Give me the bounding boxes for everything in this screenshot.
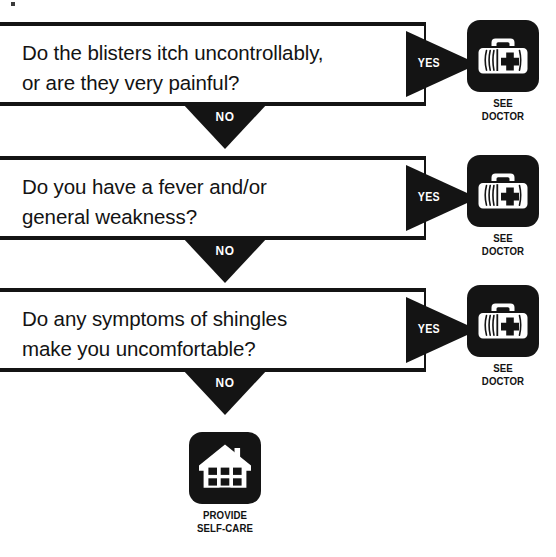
doctor-bag-icon xyxy=(467,20,539,92)
flowchart-diagram: Do the blisters itch uncontrollably, or … xyxy=(0,0,556,557)
no-arrow-3: NO xyxy=(182,369,268,415)
outcome-label-final: PROVIDE SELF-CARE xyxy=(181,509,269,534)
no-arrow-2: NO xyxy=(182,237,268,283)
yes-arrow-label-3: YES xyxy=(410,322,448,336)
house-icon xyxy=(189,432,261,504)
question-box-1: Do the blisters itch uncontrollably, or … xyxy=(0,22,426,106)
yes-arrow-label-2: YES xyxy=(410,190,448,204)
outcome-see-doctor-3: SEE DOCTOR xyxy=(455,285,551,387)
question-text-2: Do you have a fever and/or general weakn… xyxy=(22,172,392,232)
outcome-label-2: SEE DOCTOR xyxy=(459,232,547,257)
outcome-provide-self-care: PROVIDE SELF-CARE xyxy=(177,432,273,534)
outcome-label-1: SEE DOCTOR xyxy=(459,97,547,122)
question-box-3: Do any symptoms of shingles make you unc… xyxy=(0,288,426,372)
outcome-see-doctor-1: SEE DOCTOR xyxy=(455,20,551,122)
doctor-bag-icon xyxy=(467,155,539,227)
no-arrow-label-2: NO xyxy=(187,243,263,258)
outcome-see-doctor-2: SEE DOCTOR xyxy=(455,155,551,257)
no-arrow-label-3: NO xyxy=(187,375,263,390)
question-text-1: Do the blisters itch uncontrollably, or … xyxy=(22,38,392,98)
question-box-2: Do you have a fever and/or general weakn… xyxy=(0,156,426,240)
yes-arrow-label-1: YES xyxy=(410,56,448,70)
no-arrow-1: NO xyxy=(182,103,268,149)
outcome-label-3: SEE DOCTOR xyxy=(459,362,547,387)
doctor-bag-icon xyxy=(467,285,539,357)
no-arrow-label-1: NO xyxy=(187,109,263,124)
scan-artifact-speck xyxy=(11,2,15,6)
question-text-3: Do any symptoms of shingles make you unc… xyxy=(22,304,392,364)
